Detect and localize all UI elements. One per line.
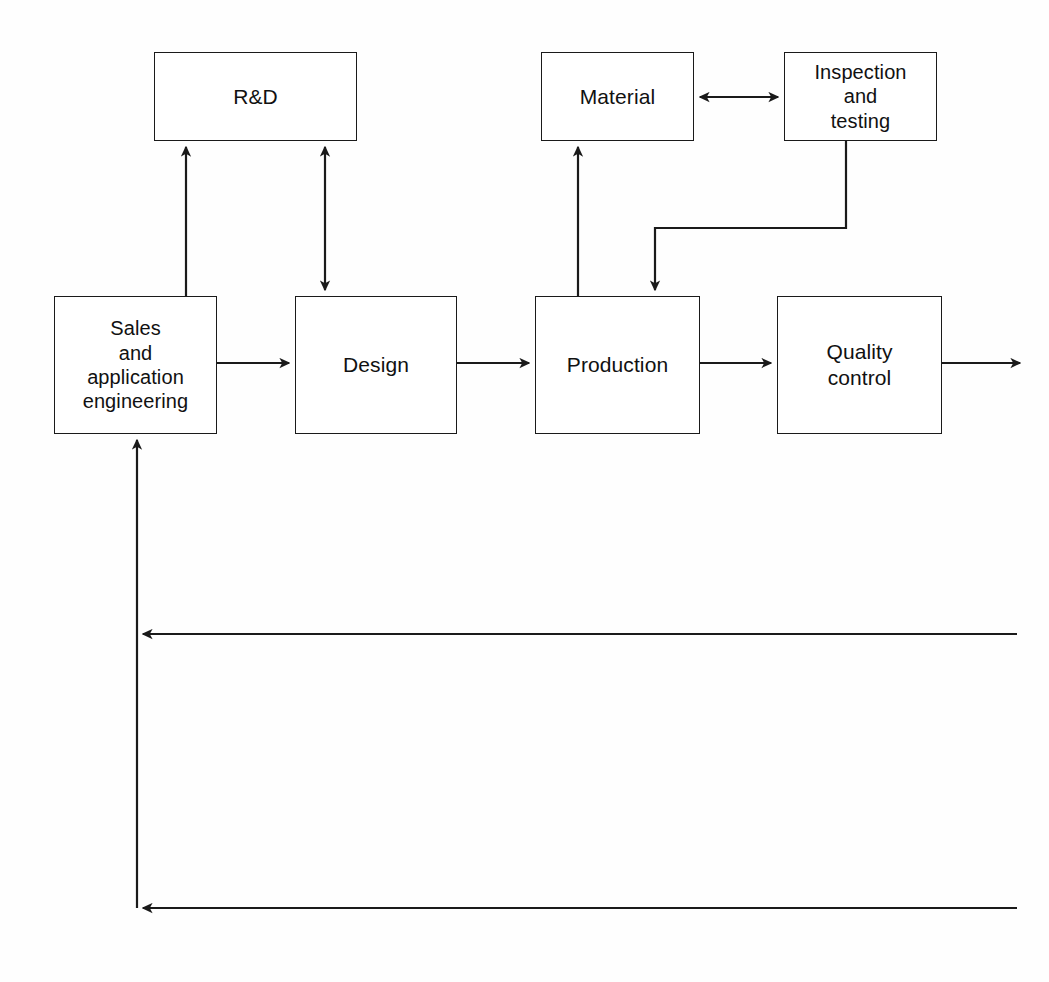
node-quality-control[interactable]: Quality control [777, 296, 942, 434]
connector-inspection-to-production [655, 141, 846, 290]
node-design-label: Design [339, 352, 413, 378]
node-sales-and-application-engineering-label: Sales and application engineering [79, 316, 193, 414]
node-material[interactable]: Material [541, 52, 694, 141]
node-design[interactable]: Design [295, 296, 457, 434]
node-production[interactable]: Production [535, 296, 700, 434]
node-rd-label: R&D [229, 84, 282, 110]
node-quality-control-label: Quality control [822, 339, 896, 390]
process-flow-diagram: R&D Material Inspection and testing Sale… [0, 0, 1049, 982]
node-inspection-and-testing-label: Inspection and testing [810, 60, 910, 133]
node-rd[interactable]: R&D [154, 52, 357, 141]
node-inspection-and-testing[interactable]: Inspection and testing [784, 52, 937, 141]
node-material-label: Material [576, 84, 660, 110]
connector-layer [0, 0, 1049, 982]
node-production-label: Production [563, 352, 672, 378]
node-sales-and-application-engineering[interactable]: Sales and application engineering [54, 296, 217, 434]
